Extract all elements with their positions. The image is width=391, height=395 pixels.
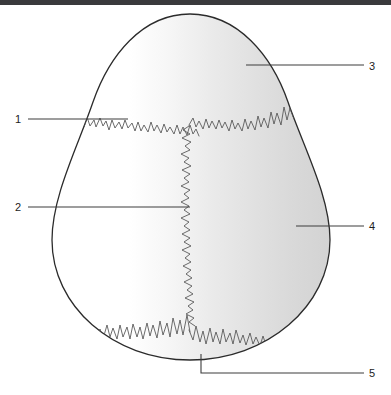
figure-page: 3 1 2 4 5 — [0, 0, 391, 395]
callout-2-label: 2 — [15, 201, 21, 213]
callout-5-leader-line — [201, 354, 364, 373]
callout-1-label: 1 — [15, 113, 21, 125]
callout-3-label: 3 — [369, 60, 375, 72]
callout-5-label: 5 — [369, 367, 375, 379]
callout-5[interactable]: 5 — [201, 354, 375, 379]
callout-4-label: 4 — [369, 220, 375, 232]
egg-diagram-figure: 3 1 2 4 5 — [0, 0, 391, 395]
